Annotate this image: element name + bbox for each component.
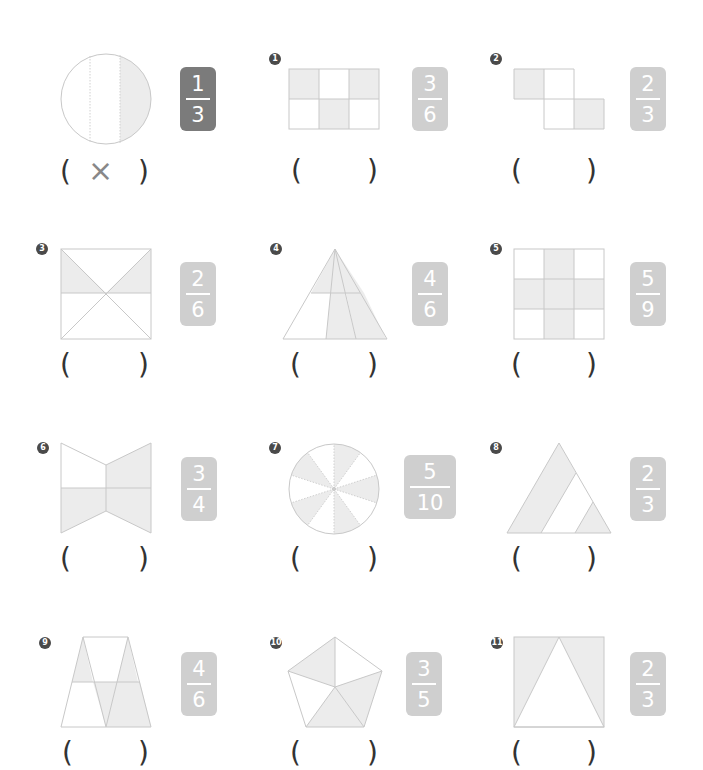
problem-number: 5 [490, 243, 502, 255]
problem-item: 2 2 3 ( ) [468, 0, 702, 190]
answer-close-paren: ) [367, 156, 378, 186]
bowtie-figure [60, 442, 152, 534]
answer-open-paren: ( [60, 350, 71, 380]
answer-field[interactable] [534, 350, 584, 380]
example-item: 1 3 ( × ) [0, 0, 234, 190]
square-triangle-figure [513, 636, 605, 728]
answer-field[interactable] [84, 738, 134, 768]
answer-open-paren: ( [62, 738, 73, 768]
problem-item: 10 3 5 ( ) [234, 590, 468, 770]
fraction-denominator: 5 [406, 688, 442, 712]
z-shape-figure [513, 68, 605, 130]
fraction-badge: 5 9 [630, 262, 666, 326]
answer-field[interactable] [534, 738, 584, 768]
circle-sector [291, 489, 334, 525]
answer-field[interactable] [314, 350, 364, 380]
fraction-numerator: 4 [181, 657, 217, 681]
problem-number: 2 [490, 53, 502, 65]
fraction-numerator: 3 [406, 657, 442, 681]
problem-item: 8 2 3 ( ) [468, 420, 702, 610]
problem-number: 1 [269, 53, 281, 65]
fraction-denominator: 6 [180, 298, 216, 322]
fraction-denominator: 6 [181, 688, 217, 712]
answer-open-paren: ( [290, 738, 301, 768]
answer-field[interactable] [84, 544, 134, 574]
answer-field[interactable] [314, 738, 364, 768]
problem-number: 7 [269, 442, 281, 454]
fraction-denominator: 3 [630, 493, 666, 517]
answer-field[interactable] [84, 350, 134, 380]
answer-field[interactable] [534, 156, 584, 186]
answer-open-paren: ( [60, 544, 71, 574]
fraction-numerator: 1 [180, 72, 216, 96]
problem-item: 3 2 6 ( ) [0, 220, 234, 410]
problem-number: 3 [36, 243, 48, 255]
answer-open-paren: ( [60, 157, 71, 187]
fraction-badge: 3 6 [412, 67, 448, 131]
fraction-bar [186, 98, 210, 100]
answer-open-paren: ( [511, 156, 522, 186]
answer-field[interactable] [314, 544, 364, 574]
rectangle-figure [288, 68, 380, 130]
square-diagonals-figure [60, 248, 152, 340]
fraction-denominator: 3 [630, 103, 666, 127]
fraction-denominator: 6 [412, 298, 448, 322]
fraction-badge: 3 4 [181, 457, 217, 521]
fraction-bar [410, 486, 450, 488]
answer-open-paren: ( [290, 350, 301, 380]
fraction-badge: 2 3 [630, 652, 666, 716]
fraction-denominator: 3 [180, 103, 216, 127]
fraction-badge: 2 6 [180, 262, 216, 326]
answer-mark-x: × [88, 156, 113, 186]
example-fraction-badge: 1 3 [180, 67, 216, 131]
answer-close-paren: ) [586, 156, 597, 186]
fraction-denominator: 4 [181, 493, 217, 517]
circle-sector [291, 453, 334, 489]
problem-item: 4 4 6 ( ) [234, 220, 468, 410]
problem-number: 4 [270, 243, 282, 255]
fraction-denominator: 6 [412, 103, 448, 127]
fraction-numerator: 2 [630, 462, 666, 486]
fraction-bar [418, 293, 442, 295]
circle-sectors-figure [287, 442, 381, 536]
fraction-denominator: 3 [630, 688, 666, 712]
answer-close-paren: ) [367, 350, 378, 380]
answer-open-paren: ( [290, 544, 301, 574]
triangle-split-figure [506, 442, 612, 534]
answer-close-paren: ) [138, 738, 149, 768]
problem-item: 5 5 9 ( ) [468, 220, 702, 410]
fraction-denominator: 10 [404, 491, 456, 515]
answer-field[interactable] [534, 544, 584, 574]
fraction-badge: 2 3 [630, 67, 666, 131]
problem-item: 6 3 4 ( ) [0, 420, 234, 610]
answer-open-paren: ( [511, 738, 522, 768]
problem-number: 6 [37, 442, 49, 454]
fraction-badge: 4 6 [181, 652, 217, 716]
answer-close-paren: ) [138, 157, 149, 187]
grid-figure [513, 248, 605, 340]
answer-open-paren: ( [511, 544, 522, 574]
fraction-numerator: 2 [180, 267, 216, 291]
answer-field[interactable] [314, 156, 364, 186]
answer-close-paren: ) [138, 350, 149, 380]
fraction-badge: 2 3 [630, 457, 666, 521]
fraction-bar [418, 98, 442, 100]
fraction-bar [186, 293, 210, 295]
fraction-badge: 5 10 [404, 455, 456, 519]
fraction-bar [636, 683, 660, 685]
fraction-numerator: 2 [630, 72, 666, 96]
fraction-bar [636, 98, 660, 100]
answer-close-paren: ) [367, 738, 378, 768]
problem-item: 11 2 3 ( ) [468, 590, 702, 770]
fraction-numerator: 5 [404, 460, 456, 484]
answer-close-paren: ) [586, 544, 597, 574]
fraction-bar [636, 293, 660, 295]
fraction-bar [412, 683, 436, 685]
answer-close-paren: ) [586, 738, 597, 768]
answer-open-paren: ( [291, 156, 302, 186]
problem-number: 9 [39, 637, 51, 649]
problem-item: 7 5 10 ( ) [234, 420, 468, 610]
answer-close-paren: ) [138, 544, 149, 574]
fraction-denominator: 9 [630, 298, 666, 322]
problem-number: 8 [490, 442, 502, 454]
